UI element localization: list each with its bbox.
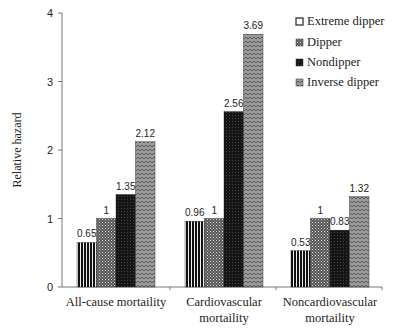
bar-value-label: 1.32 [350, 183, 370, 194]
bar-value-label: 2.12 [136, 128, 156, 139]
y-tick-label: 1 [47, 213, 53, 225]
legend-swatch-icon [296, 79, 303, 86]
bar-extreme-dipper [77, 242, 97, 287]
y-tick-label: 4 [47, 7, 53, 19]
category-label: Noncardiovascular [283, 295, 378, 309]
y-axis-ticks: 01234 [47, 7, 62, 293]
legend-swatch-icon [296, 39, 303, 46]
legend-label: Nondipper [307, 55, 361, 69]
bar-extreme-dipper [291, 251, 311, 287]
bar-value-label: 0.96 [185, 207, 205, 218]
legend: Extreme dipperDipperNondipperInverse dip… [296, 14, 385, 89]
bar-value-label: 0.53 [291, 237, 311, 248]
legend-label: Extreme dipper [307, 14, 385, 28]
category-labels: All-cause mortailityCardiovascularmortai… [66, 295, 378, 325]
bar-group: 0.6511.352.12 [77, 128, 155, 287]
bar-value-label: 1 [103, 205, 109, 216]
bar-value-label: 1 [317, 205, 323, 216]
category-label: mortaility [199, 311, 249, 325]
y-tick-label: 0 [47, 281, 53, 293]
category-label: mortaility [305, 311, 355, 325]
category-label: Cardiovascular [186, 295, 263, 309]
bar-chart: Relative hazard 01234 0.6511.352.120.961… [0, 0, 398, 335]
bar-value-label: 1 [211, 205, 217, 216]
bar-nondipper [116, 195, 136, 287]
bar-nondipper [330, 230, 350, 287]
legend-swatch-icon [296, 59, 303, 66]
bar-nondipper [224, 112, 244, 287]
legend-item: Nondipper [296, 55, 361, 69]
bar-dipper [311, 219, 331, 288]
y-tick-label: 2 [47, 144, 53, 156]
bar-group: 0.5310.831.32 [291, 183, 369, 287]
bar-inverse-dipper [136, 142, 156, 287]
bar-value-label: 2.56 [224, 98, 244, 109]
bar-value-label: 1.35 [116, 181, 136, 192]
bar-extreme-dipper [185, 221, 205, 287]
bar-inverse-dipper [350, 197, 370, 287]
bar-inverse-dipper [244, 34, 264, 287]
legend-label: Inverse dipper [307, 75, 380, 89]
bar-value-label: 0.83 [330, 216, 350, 227]
y-axis-label: Relative hazard [10, 113, 24, 188]
bar-value-label: 0.65 [77, 228, 97, 239]
bar-value-label: 3.69 [244, 20, 264, 31]
legend-item: Inverse dipper [296, 75, 380, 89]
bar-dipper [97, 219, 117, 288]
bar-group: 0.9612.563.69 [185, 20, 263, 287]
category-label: All-cause mortaility [66, 295, 167, 309]
legend-label: Dipper [307, 35, 343, 49]
legend-swatch-icon [296, 18, 303, 25]
y-tick-label: 3 [47, 76, 53, 88]
bar-dipper [205, 219, 225, 288]
legend-item: Dipper [296, 35, 343, 49]
legend-item: Extreme dipper [296, 14, 385, 28]
